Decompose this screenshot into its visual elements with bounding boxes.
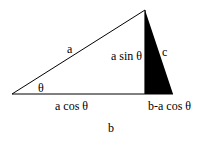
label-b-minus-a-cos-theta: b-a cos θ: [148, 100, 191, 112]
shaded-right-triangle: [145, 10, 173, 94]
label-b: b: [108, 122, 114, 134]
label-a: a: [67, 43, 72, 55]
triangle-diagram: [0, 0, 212, 143]
label-a-cos-theta: a cos θ: [55, 100, 88, 112]
label-theta: θ: [38, 82, 44, 94]
label-a-sin-theta: a sin θ: [111, 50, 142, 62]
label-c: c: [162, 46, 167, 58]
